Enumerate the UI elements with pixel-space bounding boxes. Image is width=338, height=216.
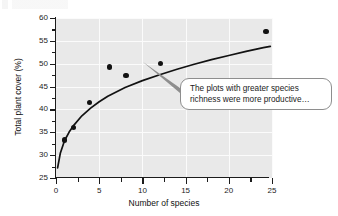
annotation-callout: The plots with greater species richness … (180, 78, 332, 110)
data-point (107, 64, 112, 69)
data-point (62, 137, 67, 142)
data-point (263, 29, 268, 34)
annotation-callout-text: The plots with greater species richness … (190, 83, 324, 105)
chart-figure: 2530354045505560 0510152025 Total plant … (0, 0, 338, 216)
callout-leader-line (143, 62, 180, 93)
data-point (123, 73, 128, 78)
